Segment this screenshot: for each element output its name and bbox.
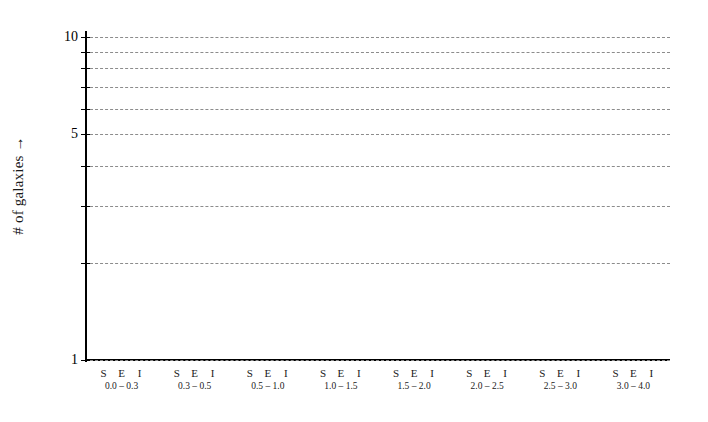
- x-axis-group: SEI1.0 – 1.5: [304, 366, 377, 406]
- x-axis-group-letters: SEI: [319, 366, 362, 380]
- x-axis-groups: SEI0.0 – 0.3SEI0.3 – 0.5SEI0.5 – 1.0SEI1…: [85, 366, 670, 406]
- chart-container: # of galaxies → 1051 SEI0.0 – 0.3SEI0.3 …: [0, 0, 708, 422]
- x-axis-group: SEI0.3 – 0.5: [158, 366, 231, 406]
- x-axis-group-range-label: 0.3 – 0.5: [178, 380, 211, 393]
- x-axis-subcategory-label: E: [191, 366, 198, 380]
- x-axis-subcategory-label: I: [575, 366, 582, 380]
- x-axis-subcategory-label: E: [630, 366, 637, 380]
- x-axis-subcategory-label: I: [136, 366, 143, 380]
- x-axis-subcategory-label: I: [502, 366, 509, 380]
- x-axis-group-letters: SEI: [393, 366, 436, 380]
- x-axis-subcategory-label: S: [319, 366, 326, 380]
- x-axis-subcategory-label: E: [264, 366, 271, 380]
- y-axis-tick-labels: 1051: [30, 37, 78, 360]
- x-axis-group-range-label: 3.0 – 4.0: [617, 380, 650, 393]
- x-axis-subcategory-label: E: [118, 366, 125, 380]
- x-axis-subcategory-label: I: [209, 366, 216, 380]
- x-axis-subcategory-label: S: [539, 366, 546, 380]
- bars-layer: [85, 37, 670, 360]
- x-axis-group-letters: SEI: [100, 366, 143, 380]
- x-axis-group-range-label: 0.5 – 1.0: [251, 380, 284, 393]
- x-axis-group: SEI2.5 – 3.0: [524, 366, 597, 406]
- x-axis-subcategory-label: S: [246, 366, 253, 380]
- gridline: [85, 360, 670, 361]
- x-axis-group-letters: SEI: [246, 366, 289, 380]
- x-axis-subcategory-label: E: [337, 366, 344, 380]
- x-axis-group-range-label: 1.5 – 2.0: [397, 380, 430, 393]
- x-axis-group-letters: SEI: [612, 366, 655, 380]
- y-axis-tick-label: 10: [38, 29, 78, 45]
- x-axis-group-range-label: 1.0 – 1.5: [324, 380, 357, 393]
- y-axis-tick: [81, 360, 90, 361]
- x-axis-subcategory-label: I: [429, 366, 436, 380]
- x-axis-subcategory-label: I: [282, 366, 289, 380]
- x-axis-subcategory-label: S: [612, 366, 619, 380]
- x-axis-group-letters: SEI: [173, 366, 216, 380]
- x-axis-group-range-label: 0.0 – 0.3: [105, 380, 138, 393]
- x-axis-subcategory-label: I: [355, 366, 362, 380]
- x-axis-group-letters: SEI: [466, 366, 509, 380]
- x-axis-subcategory-label: S: [173, 366, 180, 380]
- x-axis-group: SEI0.5 – 1.0: [231, 366, 304, 406]
- x-axis-subcategory-label: E: [484, 366, 491, 380]
- x-axis-group-range-label: 2.0 – 2.5: [471, 380, 504, 393]
- x-axis-subcategory-label: S: [393, 366, 400, 380]
- x-axis-subcategory-label: E: [557, 366, 564, 380]
- y-axis-title-label: # of galaxies →: [10, 136, 27, 234]
- plot-area: [85, 37, 670, 360]
- x-axis-subcategory-label: E: [411, 366, 418, 380]
- y-axis-tick-label: 5: [38, 126, 78, 142]
- x-axis-group-letters: SEI: [539, 366, 582, 380]
- x-axis-subcategory-label: S: [466, 366, 473, 380]
- x-axis-group: SEI2.0 – 2.5: [451, 366, 524, 406]
- x-axis-subcategory-label: I: [648, 366, 655, 380]
- x-axis-subcategory-label: S: [100, 366, 107, 380]
- x-axis-group: SEI3.0 – 4.0: [597, 366, 670, 406]
- x-axis-group-range-label: 2.5 – 3.0: [544, 380, 577, 393]
- y-axis-tick-label: 1: [38, 352, 78, 368]
- x-axis-group: SEI0.0 – 0.3: [85, 366, 158, 406]
- x-axis-group: SEI1.5 – 2.0: [378, 366, 451, 406]
